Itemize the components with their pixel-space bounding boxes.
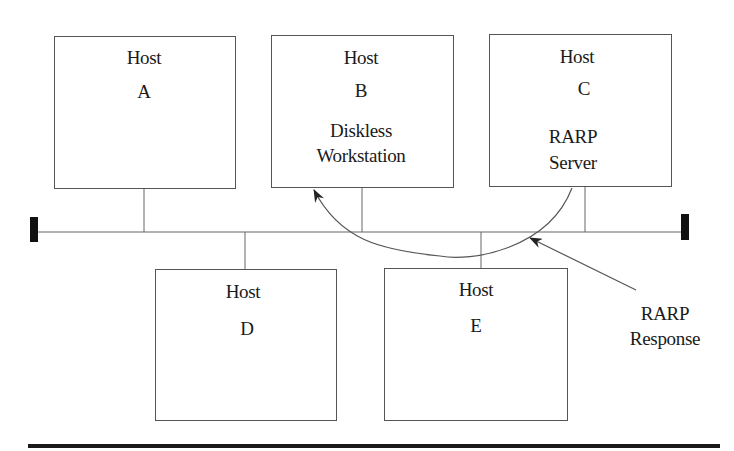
- host-d-label: Host: [226, 281, 261, 303]
- bus-terminator-left: [30, 217, 38, 242]
- rarp-response-curve: [314, 188, 572, 257]
- host-b-label: Host: [344, 47, 379, 69]
- host-a-letter: A: [137, 81, 150, 103]
- host-c-role-line2: Server: [549, 152, 597, 174]
- rarp-response-annotation-line1: RARP: [641, 303, 689, 325]
- host-b-letter: B: [355, 80, 367, 102]
- host-a-label: Host: [127, 47, 162, 69]
- host-b-role-line2: Workstation: [316, 145, 405, 167]
- host-c-label: Host: [560, 46, 595, 68]
- host-d-letter: D: [240, 318, 253, 340]
- host-e-label: Host: [459, 279, 494, 301]
- host-c-letter: C: [578, 78, 590, 100]
- rarp-response-annotation-line2: Response: [630, 328, 700, 350]
- host-b-role-line1: Diskless: [330, 120, 392, 142]
- host-e-letter: E: [470, 315, 481, 337]
- bus-terminator-right: [681, 214, 689, 240]
- bottom-rule: [28, 444, 720, 448]
- host-c-role-line1: RARP: [549, 126, 597, 148]
